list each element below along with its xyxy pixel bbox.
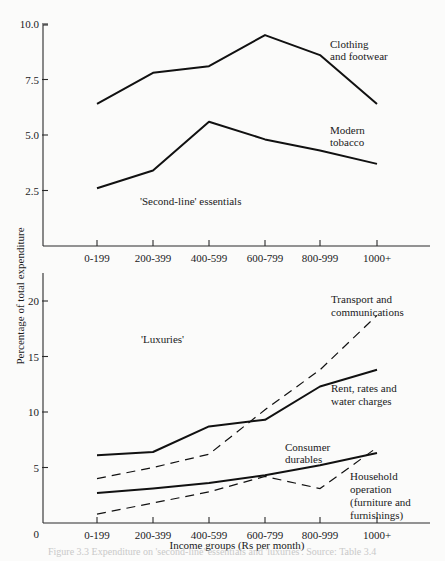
series-label: Clothing [330,38,369,50]
x-tick-label: 400-599 [191,252,228,264]
x-tick-label: 600-799 [247,252,284,264]
figure-caption: Figure 3.3 Expenditure on 'second-line' … [48,546,376,557]
series-label: (furniture and [350,496,411,509]
series-label: Rent, rates and [331,382,397,394]
y-axis-title: Percentage of total expenditure [14,227,26,364]
x-tick-label: 1000+ [363,252,391,264]
x-tick-label: 0-199 [84,529,110,541]
y-tick-label: 5 [34,462,40,474]
chart-figure: 2.55.07.510.00-199200-399400-599600-7998… [0,0,445,561]
group-annotation: 'Luxuries' [141,333,184,345]
series-label: communications [331,306,404,318]
x-tick-label: 800-999 [302,529,339,541]
group-annotation: 'Second-line' essentials [140,195,241,207]
series-label: water charges [331,395,392,407]
y-tick-label: 2.5 [25,185,39,197]
x-tick-label: 200-399 [135,529,172,541]
series-line-consumer-durables [97,453,377,493]
series-label: furnishings) [350,509,404,522]
series-label: Modern [330,124,365,136]
panel-second-line-essentials: 2.55.07.510.00-199200-399400-599600-7998… [20,18,430,264]
series-line-household-operation-furniture-and-furnishings [97,448,377,515]
series-label: and footwear [330,50,388,62]
series-label: durables [285,453,322,465]
series-label: Transport and [331,293,393,305]
x-tick-label: 200-399 [135,252,172,264]
y-tick-label: 20 [28,295,40,307]
y-tick-label: 0 [34,528,40,540]
x-tick-label: 800-999 [302,252,339,264]
series-label: Consumer [285,441,331,453]
y-tick-label: 7.5 [25,74,39,86]
series-label: Household [350,470,398,482]
x-tick-label: 0-199 [84,252,110,264]
series-label: tobacco [330,136,365,148]
y-tick-label: 10 [28,406,40,418]
panel-luxuries: 051015200-199200-399400-599600-799800-99… [28,273,430,541]
y-tick-label: 5.0 [25,129,39,141]
y-tick-label: 10.0 [20,18,40,30]
series-label: operation [350,483,392,495]
y-tick-label: 15 [28,351,40,363]
x-tick-label: 1000+ [363,529,391,541]
